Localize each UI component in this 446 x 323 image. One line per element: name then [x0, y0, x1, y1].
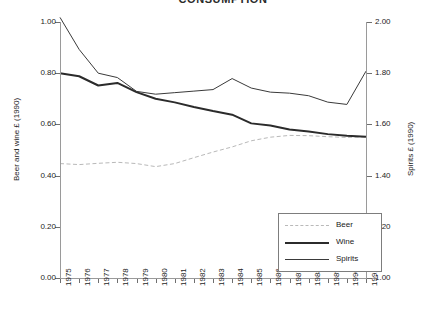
x-tick: [79, 279, 80, 283]
legend-item-wine[interactable]: Wine: [285, 237, 354, 246]
y-tick-label-left: 0.40: [24, 171, 56, 180]
y-tick-right: [367, 176, 372, 177]
x-tick-label: 1981: [179, 268, 188, 286]
x-tick-label: 1979: [141, 268, 150, 286]
x-tick: [366, 279, 367, 283]
y-tick-right: [367, 73, 372, 74]
y-tick-label-left: 0.00: [24, 273, 56, 282]
x-tick-label: 1978: [121, 268, 130, 286]
x-tick: [251, 279, 252, 283]
series-line-wine: [60, 73, 366, 136]
x-tick: [328, 279, 329, 283]
x-tick-label: 1980: [160, 268, 169, 286]
legend-label: Wine: [336, 237, 354, 246]
x-tick: [232, 279, 233, 283]
legend-item-beer[interactable]: Beer: [285, 220, 353, 229]
legend-swatch-beer: [285, 221, 329, 229]
legend-label: Beer: [336, 220, 353, 229]
x-tick: [270, 279, 271, 283]
y-tick-label-right: 1.80: [375, 68, 391, 77]
x-tick: [117, 279, 118, 283]
legend-label: Spirits: [336, 254, 358, 263]
y-tick-right: [367, 124, 372, 125]
x-tick-label: 1977: [102, 268, 111, 286]
x-tick: [347, 279, 348, 283]
legend-item-spirits[interactable]: Spirits: [285, 254, 358, 263]
y-axis-title-right: Spirits £ (1990): [406, 121, 415, 175]
legend-swatch-wine: [285, 238, 329, 246]
y-tick-label-right: 1.40: [375, 171, 391, 180]
x-tick: [175, 279, 176, 283]
series-line-beer: [60, 135, 366, 166]
series-line-spirits: [60, 17, 366, 104]
y-axis-title-left: Beer and wine £ (1990): [12, 98, 21, 181]
x-tick: [194, 279, 195, 283]
x-tick: [309, 279, 310, 283]
y-tick-label-left: 1.00: [24, 17, 56, 26]
y-tick-label-left: 0.60: [24, 119, 56, 128]
x-tick-label: 1985: [255, 268, 264, 286]
chart-root: CONSUMPTION 0.000.200.400.600.801.001.00…: [0, 0, 446, 323]
x-tick-label: 1975: [64, 268, 73, 286]
x-tick: [156, 279, 157, 283]
y-tick-label-left: 0.80: [24, 68, 56, 77]
x-tick: [60, 279, 61, 283]
y-tick-label-right: 2.00: [375, 17, 391, 26]
x-tick-label: 1983: [217, 268, 226, 286]
y-tick-right: [367, 22, 372, 23]
x-tick: [98, 279, 99, 283]
legend-swatch-spirits: [285, 255, 329, 263]
x-tick: [137, 279, 138, 283]
y-axis-left-line: [60, 22, 61, 279]
y-tick-label-left: 0.20: [24, 222, 56, 231]
x-tick-label: 1984: [236, 268, 245, 286]
chart-legend[interactable]: BeerWineSpirits: [278, 213, 382, 272]
x-tick-label: 1976: [83, 268, 92, 286]
x-tick: [290, 279, 291, 283]
x-tick: [213, 279, 214, 283]
y-tick-label-right: 1.60: [375, 119, 391, 128]
x-tick-label: 1982: [198, 268, 207, 286]
